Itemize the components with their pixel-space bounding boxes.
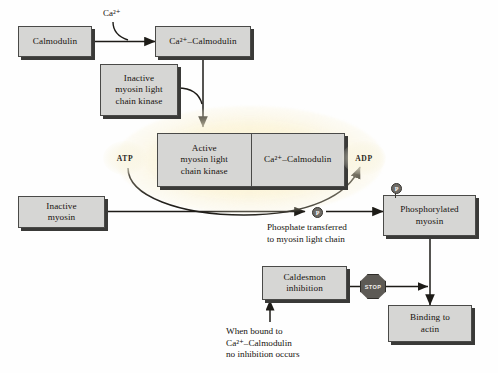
caption-caldesmon-note: When bound to Ca²⁺–Calmodulin no inhibit… bbox=[226, 326, 300, 361]
node-inactive-myosin[interactable]: Inactive myosin bbox=[18, 196, 105, 228]
node-calmodulin-label: Calmodulin bbox=[30, 36, 80, 47]
node-active-kinase-complex[interactable]: Active myosin light chain kinase Ca²⁺–Ca… bbox=[157, 133, 345, 187]
node-caldesmon-inhibition[interactable]: Caldesmon inhibition bbox=[262, 266, 347, 300]
phosphate-symbol-text: P bbox=[316, 210, 320, 216]
caldesmon-caption-line-3: no inhibition occurs bbox=[226, 349, 300, 359]
node-active-kinase-compartment: Active myosin light chain kinase bbox=[158, 134, 252, 186]
active-kinase-line-2: myosin light bbox=[181, 154, 228, 164]
node-active-kinase-label: Active myosin light chain kinase bbox=[178, 143, 231, 177]
node-inactive-myosin-light-chain-kinase[interactable]: Inactive myosin light chain kinase bbox=[100, 64, 178, 116]
phosphate-group-on-myosin: P bbox=[391, 183, 402, 194]
caldesmon-line-2: inhibition bbox=[286, 283, 323, 293]
pathway-diagram: Calmodulin Ca²⁺–Calmodulin Inactive myos… bbox=[0, 0, 498, 373]
node-bound-calmodulin-label: Ca²⁺–Calmodulin bbox=[261, 154, 334, 165]
calcium-ion-text: Ca²⁺ bbox=[103, 8, 120, 18]
arrow-inactive-kinase-in bbox=[178, 88, 202, 104]
node-binding-actin-label: Binding to actin bbox=[407, 312, 453, 335]
phosphate-symbol-text-myosin: P bbox=[395, 186, 399, 192]
node-bound-calmodulin-compartment: Ca²⁺–Calmodulin bbox=[252, 134, 345, 186]
arrow-calcium-input bbox=[113, 22, 128, 40]
stop-sign: STOP bbox=[360, 274, 386, 299]
adp-label: ADP bbox=[355, 154, 372, 163]
caldesmon-line-1: Caldesmon bbox=[283, 272, 325, 282]
label-calcium-ion: Ca²⁺ bbox=[103, 8, 120, 20]
phosphate-caption-line-2: to myosin light chain bbox=[267, 234, 345, 244]
stop-label: STOP bbox=[365, 284, 381, 290]
caption-phosphate-transfer: Phosphate transferred to myosin light ch… bbox=[267, 222, 347, 245]
phosphate-group-transferred: P bbox=[312, 207, 323, 218]
phosphorylated-myosin-line-2: myosin bbox=[416, 216, 444, 226]
phosphorylated-myosin-line-1: Phosphorylated bbox=[400, 204, 459, 214]
node-inactive-myosin-label: Inactive myosin bbox=[43, 201, 79, 224]
active-kinase-line-3: chain kinase bbox=[181, 166, 228, 176]
inactive-kinase-line-2: myosin light bbox=[115, 84, 162, 94]
active-kinase-line-1: Active bbox=[192, 143, 217, 153]
molecule-adp: ADP bbox=[351, 150, 377, 166]
molecule-atp: ATP bbox=[112, 150, 138, 166]
inactive-kinase-line-3: chain kinase bbox=[116, 96, 163, 106]
caldesmon-caption-line-1: When bound to bbox=[226, 326, 283, 336]
phosphate-caption-line-1: Phosphate transferred bbox=[267, 222, 347, 232]
node-ca-calmodulin-label: Ca²⁺–Calmodulin bbox=[166, 36, 239, 47]
inactive-myosin-line-2: myosin bbox=[48, 212, 76, 222]
binding-actin-line-2: actin bbox=[421, 324, 439, 334]
node-binding-to-actin[interactable]: Binding to actin bbox=[388, 305, 472, 342]
binding-actin-line-1: Binding to bbox=[410, 312, 450, 322]
node-ca-calmodulin[interactable]: Ca²⁺–Calmodulin bbox=[155, 26, 251, 57]
node-phosphorylated-myosin-label: Phosphorylated myosin bbox=[397, 204, 462, 227]
node-phosphorylated-myosin[interactable]: Phosphorylated myosin bbox=[383, 195, 476, 236]
atp-label: ATP bbox=[117, 154, 133, 163]
node-caldesmon-label: Caldesmon inhibition bbox=[280, 272, 328, 295]
node-calmodulin[interactable]: Calmodulin bbox=[18, 26, 92, 57]
node-inactive-kinase-label: Inactive myosin light chain kinase bbox=[112, 73, 165, 107]
caldesmon-caption-line-2: Ca²⁺–Calmodulin bbox=[226, 338, 292, 348]
inactive-kinase-line-1: Inactive bbox=[124, 73, 154, 83]
inactive-myosin-line-1: Inactive bbox=[46, 201, 76, 211]
